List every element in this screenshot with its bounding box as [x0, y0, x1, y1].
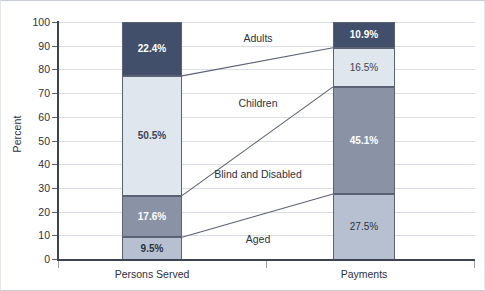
series-label-adults: Adults [208, 32, 308, 44]
bar-segment-persons-served-children[interactable]: 50.5% [122, 76, 182, 196]
segment-value-label: 22.4% [138, 43, 166, 54]
y-axis-line [57, 21, 59, 260]
bar-segment-persons-served-aged[interactable]: 9.5% [122, 237, 182, 260]
segment-value-label: 45.1% [350, 135, 378, 146]
segment-value-label: 27.5% [350, 221, 378, 232]
segment-value-label: 17.6% [138, 211, 166, 222]
bar-segment-payments-blind-and-disabled[interactable]: 45.1% [333, 87, 395, 194]
bar-segment-payments-aged[interactable]: 27.5% [333, 194, 395, 260]
bar-segment-persons-served-blind-and-disabled[interactable]: 17.6% [122, 196, 182, 238]
series-label-children: Children [208, 97, 308, 109]
series-label-aged: Aged [208, 233, 308, 245]
x-axis-label-payments: Payments [294, 268, 434, 280]
x-tick-mark-middle [266, 261, 267, 268]
segment-value-label: 9.5% [141, 243, 164, 254]
x-axis-label-persons-served: Persons Served [82, 268, 222, 280]
segment-value-label: 16.5% [350, 62, 378, 73]
bar-segment-payments-adults[interactable]: 10.9% [333, 22, 395, 48]
bar-segment-persons-served-adults[interactable]: 22.4% [122, 22, 182, 76]
segment-value-label: 50.5% [138, 130, 166, 141]
x-tick-mark-right [474, 261, 475, 268]
segment-value-label: 10.9% [350, 29, 378, 40]
series-label-blind-and-disabled: Blind and Disabled [188, 168, 328, 180]
bar-segment-payments-children[interactable]: 16.5% [333, 48, 395, 87]
x-tick-mark-left [58, 261, 59, 268]
stacked-bar-chart: Percent 100 90 80 70 60 50 40 30 20 10 0… [0, 0, 485, 291]
